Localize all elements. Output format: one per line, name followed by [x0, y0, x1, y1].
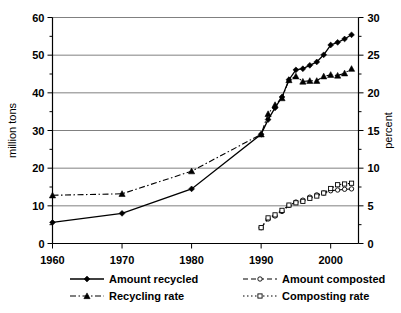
data-point-recycling-rate: [341, 70, 347, 76]
data-point-amount-composted: [335, 188, 339, 192]
data-point-amount-recycled: [342, 36, 348, 42]
data-point-composting-rate: [266, 216, 270, 220]
legend-marker-amount-recycled: [84, 276, 90, 282]
data-point-recycling-rate: [188, 168, 194, 174]
data-point-composting-rate: [336, 183, 340, 187]
x-tick-label: 1970: [110, 254, 134, 266]
legend-label-composting-rate: Composting rate: [282, 290, 369, 302]
data-point-composting-rate: [280, 208, 284, 212]
y-tick-label-left: 10: [32, 200, 44, 212]
line-chart: 0102030405060051015202530196019701980199…: [0, 0, 401, 313]
data-point-composting-rate: [301, 199, 305, 203]
y-tick-label-left: 30: [32, 125, 44, 137]
legend-label-amount-recycled: Amount recycled: [109, 273, 198, 285]
data-point-composting-rate: [287, 203, 291, 207]
data-point-composting-rate: [315, 194, 319, 198]
x-tick-label: 1960: [40, 254, 64, 266]
y-tick-label-right: 5: [368, 200, 374, 212]
chart-container: 0102030405060051015202530196019701980199…: [0, 0, 401, 313]
y-tick-label-right: 15: [368, 125, 380, 137]
y-tick-label-right: 30: [368, 12, 380, 24]
y-tick-label-left: 60: [32, 12, 44, 24]
y-tick-label-right: 10: [368, 162, 380, 174]
y-tick-label-left: 20: [32, 162, 44, 174]
data-point-amount-recycled: [265, 117, 271, 123]
series-line-amount-composted: [261, 189, 351, 228]
data-point-recycling-rate: [348, 66, 354, 72]
data-point-recycling-rate: [314, 78, 320, 84]
data-point-amount-recycled: [307, 62, 313, 68]
y-tick-label-right: 25: [368, 49, 380, 61]
legend-label-recycling-rate: Recycling rate: [109, 290, 184, 302]
legend-marker-composting-rate: [258, 294, 262, 298]
data-point-amount-composted: [342, 187, 346, 191]
y-tick-label-left: 50: [32, 49, 44, 61]
data-point-composting-rate: [273, 213, 277, 217]
x-tick-label: 2000: [318, 254, 342, 266]
y-tick-label-right: 20: [368, 87, 380, 99]
data-point-amount-composted: [349, 187, 353, 191]
data-point-composting-rate: [349, 181, 353, 185]
y-axis-title-left: million tons: [6, 102, 18, 158]
x-tick-label: 1990: [249, 254, 273, 266]
data-point-recycling-rate: [321, 73, 327, 79]
y-tick-label-left: 40: [32, 87, 44, 99]
series-line-amount-recycled: [53, 35, 352, 223]
data-point-composting-rate: [322, 191, 326, 195]
y-tick-label-right: 0: [368, 238, 374, 250]
data-point-composting-rate: [259, 226, 263, 230]
data-point-amount-recycled: [335, 39, 341, 45]
series-line-recycling-rate: [53, 69, 352, 196]
y-axis-title-right: percent: [382, 112, 394, 149]
legend-label-amount-composted: Amount composted: [282, 273, 385, 285]
data-point-composting-rate: [342, 182, 346, 186]
data-point-composting-rate: [329, 186, 333, 190]
data-point-recycling-rate: [328, 72, 334, 78]
data-point-composting-rate: [308, 196, 312, 200]
data-point-amount-recycled: [119, 210, 125, 216]
data-point-composting-rate: [294, 201, 298, 205]
data-point-amount-recycled: [349, 32, 355, 38]
data-point-amount-recycled: [300, 66, 306, 72]
legend-marker-amount-composted: [258, 277, 262, 281]
y-tick-label-left: 0: [38, 238, 44, 250]
x-tick-label: 1980: [179, 254, 203, 266]
